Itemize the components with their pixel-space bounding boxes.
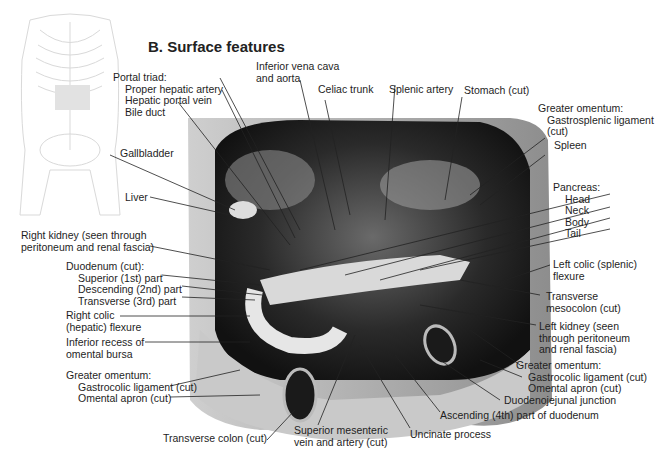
label-uncinate-process: Uncinate process [410, 429, 491, 441]
label-right-kidney: Right kidney (seen through peritoneum an… [21, 230, 154, 253]
label-left-colic-flexure: Left colic (splenic) flexure [553, 259, 637, 282]
label-ivc-aorta: Inferior vena cava and aorta [256, 61, 339, 84]
label-transverse-mesocolon: Transverse mesocolon (cut) [546, 291, 621, 314]
label-inferior-recess: Inferior recess of omental bursa [66, 337, 144, 360]
label-greater-omentum-right: Greater omentum: Gastrocolic ligament (c… [516, 360, 647, 395]
label-pancreas: Pancreas: Head Neck Body Tail [553, 182, 600, 240]
label-portal-triad: Portal triad: Proper hepatic artery Hepa… [113, 72, 223, 118]
label-liver: Liver [125, 192, 148, 204]
label-greater-omentum-left: Greater omentum: Gastrocolic ligament (c… [66, 370, 197, 405]
label-stomach: Stomach (cut) [464, 85, 529, 97]
label-splenic-artery: Splenic artery [389, 84, 453, 96]
figure-title: B. Surface features [148, 38, 285, 55]
label-greater-omentum-top: Greater omentum: Gastrosplenic ligament … [538, 103, 654, 138]
label-celiac-trunk: Celiac trunk [318, 84, 373, 96]
label-duodenum: Duodenum (cut): Superior (1st) part Desc… [66, 261, 182, 307]
label-transverse-colon: Transverse colon (cut) [163, 433, 267, 445]
label-left-kidney: Left kidney (seen through peritoneum and… [539, 321, 630, 356]
label-superior-mesenteric: Superior mesenteric vein and artery (cut… [294, 425, 388, 448]
label-spleen: Spleen [554, 140, 587, 152]
label-ascending-duodenum: Ascending (4th) part of duodenum [440, 410, 599, 422]
label-gallbladder: Gallbladder [120, 148, 174, 160]
torso-thumbnail [20, 14, 120, 215]
label-duodenojejunal-junction: Duodenojejunal junction [504, 395, 616, 407]
label-right-colic-flexure: Right colic (hepatic) flexure [66, 310, 141, 333]
